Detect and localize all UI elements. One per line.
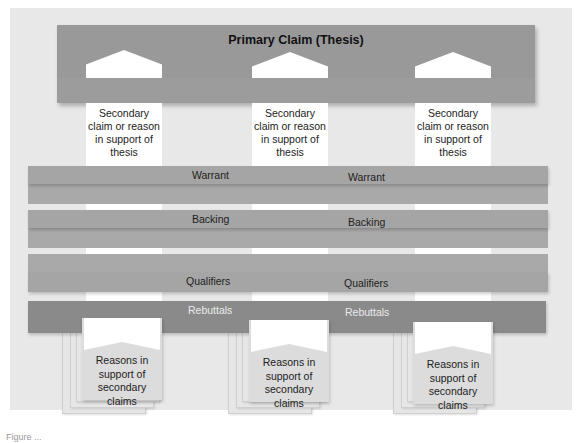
warrant-label: Warrant — [192, 169, 229, 181]
reasons-line: secondary claims — [82, 381, 162, 408]
reasons-line: Reasons in — [249, 356, 329, 370]
qualifiers-band: Qualifiers Qualifiers — [28, 272, 548, 292]
qualifiers-label: Qualifiers — [344, 277, 388, 289]
flag-icon — [84, 318, 160, 350]
reasons-box-3: Reasons in support of secondary claims — [413, 322, 493, 404]
secondary-claim-line: Secondary — [415, 107, 491, 120]
warrant-label: Warrant — [348, 171, 385, 183]
reasons-line: support of — [249, 370, 329, 384]
primary-claim-bar-lower — [57, 78, 535, 103]
qualifiers-label: Qualifiers — [186, 275, 230, 287]
secondary-claim-line: in support of — [86, 133, 162, 146]
reasons-line: secondary claims — [413, 385, 493, 412]
rebuttals-label: Rebuttals — [188, 304, 232, 316]
backing-label: Backing — [348, 216, 385, 228]
secondary-claim-line: thesis — [415, 146, 491, 159]
reasons-line: support of — [82, 368, 162, 382]
secondary-claim-line: thesis — [252, 146, 328, 159]
secondary-claim-line: claim or reason — [252, 120, 328, 133]
reasons-line: Reasons in — [413, 358, 493, 372]
backing-band: Backing Backing — [28, 210, 548, 228]
secondary-claim-line: in support of — [415, 133, 491, 146]
figure-caption: Figure ... — [6, 432, 42, 442]
reasons-line: Reasons in — [82, 354, 162, 368]
secondary-claim-line: thesis — [86, 146, 162, 159]
backing-band-lower — [28, 226, 548, 248]
secondary-claim-line: Secondary — [252, 107, 328, 120]
warrant-band: Warrant Warrant — [28, 166, 548, 184]
secondary-claim-line: claim or reason — [415, 120, 491, 133]
secondary-claim-block-3: Secondary claim or reason in support of … — [415, 103, 491, 166]
flag-icon — [251, 320, 327, 352]
reasons-line: support of — [413, 372, 493, 386]
secondary-claim-block-2: Secondary claim or reason in support of … — [252, 103, 328, 166]
rebuttals-label: Rebuttals — [345, 306, 389, 318]
secondary-claim-line: Secondary — [86, 107, 162, 120]
warrant-band-lower — [28, 182, 548, 204]
reasons-box-1: Reasons in support of secondary claims — [82, 318, 162, 400]
backing-label: Backing — [192, 213, 229, 225]
primary-claim-title: Primary Claim (Thesis) — [57, 33, 535, 47]
qualifiers-band-lower — [28, 254, 548, 274]
reasons-box-2: Reasons in support of secondary claims — [249, 320, 329, 402]
flag-icon — [415, 322, 491, 354]
reasons-line: secondary claims — [249, 383, 329, 410]
secondary-claim-block-1: Secondary claim or reason in support of … — [86, 103, 162, 166]
secondary-claim-line: claim or reason — [86, 120, 162, 133]
secondary-claim-line: in support of — [252, 133, 328, 146]
